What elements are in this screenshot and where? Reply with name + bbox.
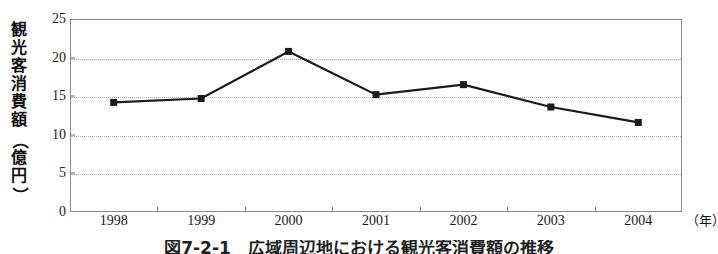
x-axis-tick-label: 1998 <box>100 214 128 228</box>
x-axis-tick-mark <box>157 207 158 212</box>
y-axis-tick-label: 15 <box>40 89 66 103</box>
y-axis-tick-label: 20 <box>40 51 66 65</box>
y-axis-tick-mark <box>70 57 75 58</box>
x-axis-tick-label: 2001 <box>362 214 390 228</box>
x-axis-ticks: 1998199920002001200220032004 <box>70 214 682 236</box>
x-axis-tick-label: 2003 <box>537 214 565 228</box>
y-axis-ticks: 0510152025 <box>36 19 66 212</box>
x-axis-tick-mark <box>507 207 508 212</box>
x-axis-tick-label: 1999 <box>187 214 215 228</box>
y-axis-tick-mark <box>70 134 75 135</box>
data-point-marker <box>373 91 380 98</box>
series-consumption <box>70 19 682 212</box>
y-axis-title-char: 額 <box>11 112 27 130</box>
y-axis-unit-paren-open: （ <box>10 133 28 149</box>
series-line <box>114 51 639 122</box>
y-axis-tick-label: 10 <box>40 128 66 142</box>
y-axis-unit-paren-close: ） <box>10 187 28 203</box>
x-axis-tick-label: 2004 <box>624 214 652 228</box>
y-axis-unit-char: 円 <box>11 168 27 186</box>
figure-container: 観 光 客 消 費 額 （ 億 円 ） 0510152025 199819992… <box>0 0 718 254</box>
x-axis-tick-label: 2002 <box>449 214 477 228</box>
y-axis-tick-mark <box>70 96 75 97</box>
x-axis-tick-mark <box>420 207 421 212</box>
y-axis-tick-label: 25 <box>40 12 66 26</box>
x-axis-tick-label: 2000 <box>275 214 303 228</box>
y-axis-tick-mark <box>70 173 75 174</box>
data-point-marker <box>460 81 467 88</box>
data-point-marker <box>198 95 205 102</box>
x-axis-tick-mark <box>245 207 246 212</box>
figure-caption: 図7-2-1 広域周辺地における観光客消費額の推移 <box>0 240 718 254</box>
y-axis-tick-label: 5 <box>40 166 66 180</box>
y-axis-title: 観 光 客 消 費 額 （ 億 円 ） <box>4 22 34 217</box>
data-point-marker <box>547 104 554 111</box>
data-point-marker <box>635 119 642 126</box>
data-point-marker <box>285 48 292 55</box>
data-point-marker <box>110 99 117 106</box>
x-axis-tick-mark <box>332 207 333 212</box>
y-axis-tick-label: 0 <box>40 205 66 219</box>
y-axis-unit: （ 億 円 ） <box>11 132 27 204</box>
x-axis-tick-mark <box>595 207 596 212</box>
x-axis-unit-label: （年） <box>686 214 718 227</box>
